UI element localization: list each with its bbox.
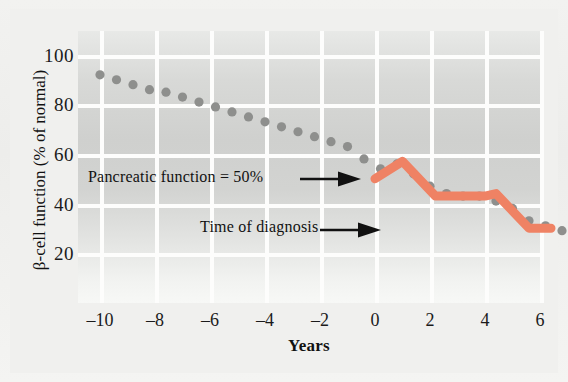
gridline-x-4 <box>485 31 489 303</box>
gridline-y-100 <box>78 55 540 59</box>
gridline-x--4 <box>265 31 269 303</box>
annotation-arrow-pancreatic <box>300 170 362 188</box>
x-tick--4: –4 <box>243 310 287 331</box>
gridline-x-2 <box>430 31 434 303</box>
gridline-x--6 <box>210 31 214 303</box>
gridline-y-80 <box>78 104 540 108</box>
gridline-y-40 <box>78 204 540 208</box>
annotation-arrow-diagnosis <box>320 221 382 239</box>
x-axis-title: Years <box>78 336 540 356</box>
gridline-x--8 <box>155 31 159 303</box>
x-axis-tick-labels: –10 –8 –6 –4 –2 0 2 4 6 <box>78 310 540 336</box>
y-axis-title: β-cell function (% of normal) <box>30 20 50 320</box>
gridline-x--10 <box>100 31 104 303</box>
annotation-time-of-diagnosis: Time of diagnosis <box>200 218 318 236</box>
gridline-x-6 <box>540 31 544 303</box>
annotation-pancreatic-function: Pancreatic function = 50% <box>88 168 263 186</box>
x-tick-0: 0 <box>353 310 397 331</box>
x-tick-2: 2 <box>408 310 452 331</box>
plot-area <box>78 31 540 303</box>
x-tick-4: 4 <box>463 310 507 331</box>
x-tick--8: –8 <box>133 310 177 331</box>
gridline-y-20 <box>78 253 540 257</box>
x-tick--2: –2 <box>298 310 342 331</box>
x-tick-6: 6 <box>518 310 562 331</box>
gridline-x--2 <box>320 31 324 303</box>
gridline-x-0 <box>375 31 379 303</box>
x-tick--10: –10 <box>78 310 122 331</box>
gridline-y-60 <box>78 154 540 158</box>
chart-figure: 100 80 60 40 20 β-cell function (% of no… <box>0 0 568 382</box>
x-tick--6: –6 <box>188 310 232 331</box>
